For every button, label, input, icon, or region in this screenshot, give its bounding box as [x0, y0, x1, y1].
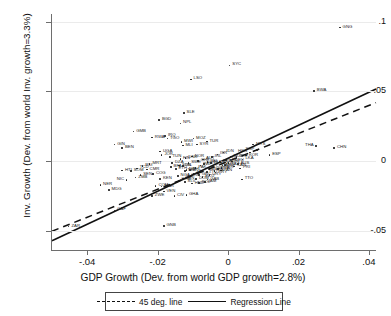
x-tick-label: 0 — [205, 256, 251, 267]
point-label: TUR — [209, 138, 218, 143]
gridline-y — [52, 22, 376, 23]
point-label: NOR — [195, 153, 205, 158]
point-marker — [186, 169, 188, 171]
y-tick-mark — [46, 91, 52, 92]
legend-entry-45-deg-line: 45 deg. line — [97, 297, 182, 307]
point-label: HND — [195, 180, 204, 185]
point-label: TTO — [245, 175, 254, 180]
point-marker — [225, 159, 227, 161]
point-label: MOZ — [196, 135, 206, 140]
point-label: ISL — [186, 162, 192, 167]
point-label: VEN — [166, 188, 175, 193]
point-label: TGO — [170, 135, 179, 140]
x-tick-label: -.02 — [135, 256, 181, 267]
point-label: ZAR — [71, 223, 80, 228]
point-label: SYR — [200, 141, 209, 146]
point-label: GNB — [166, 222, 175, 227]
point-label: NPL — [183, 119, 191, 124]
point-label: CIV — [177, 192, 184, 197]
x-tick-label: .04 — [346, 256, 391, 267]
chart-legend: 45 deg. line Regression Line — [105, 292, 283, 311]
point-marker — [203, 163, 205, 165]
point-marker — [182, 165, 184, 167]
point-marker — [211, 156, 213, 158]
point-marker — [313, 90, 315, 92]
gridline-y — [52, 91, 376, 92]
x-tick-mark — [87, 250, 88, 255]
point-marker — [151, 195, 153, 197]
point-marker — [100, 184, 102, 186]
point-label: PAN — [224, 167, 233, 172]
point-label: ZWE — [155, 192, 165, 197]
point-label: MDG — [112, 186, 122, 191]
point-label: MYS — [256, 141, 265, 146]
dashed-line-swatch — [97, 298, 135, 305]
point-marker — [186, 194, 188, 196]
fitted-lines — [52, 16, 376, 248]
point-label: GTM — [181, 176, 191, 181]
point-label: SLE — [187, 109, 195, 114]
point-label: SGP — [245, 146, 254, 151]
x-tick-label: -.04 — [64, 256, 110, 267]
point-label: ISR — [220, 150, 227, 155]
point-marker — [183, 112, 185, 114]
point-label: MLI — [186, 142, 193, 147]
y-tick-mark — [46, 161, 52, 162]
x-tick-mark — [299, 250, 300, 255]
gridline-y — [52, 231, 376, 232]
point-label: SYC — [232, 61, 241, 66]
point-marker — [108, 189, 110, 191]
point-label: CHN — [337, 144, 346, 149]
point-label: THA — [305, 142, 314, 147]
point-label: MUS — [233, 153, 243, 158]
point-label: BGD — [162, 116, 171, 121]
point-marker — [159, 178, 161, 180]
y-axis-title: Inv. Growth (Dev. from world Inv. growth… — [21, 0, 32, 239]
point-label: SWE — [191, 159, 201, 164]
y-tick-label: -.05 — [342, 225, 386, 235]
point-marker — [181, 141, 183, 143]
y-axis-line — [51, 14, 52, 250]
point-marker — [177, 175, 179, 177]
point-marker — [315, 145, 317, 147]
legend-label-45-deg-line: 45 deg. line — [139, 297, 182, 307]
point-marker — [158, 119, 160, 121]
x-axis-line — [51, 250, 376, 251]
point-label: CAF — [117, 206, 126, 211]
point-marker — [241, 179, 243, 181]
point-label: RWA — [155, 134, 165, 139]
point-marker — [169, 156, 171, 158]
point-marker — [256, 149, 258, 151]
point-label: ESP — [272, 151, 281, 156]
point-label: TUN — [172, 153, 181, 158]
point-marker — [171, 162, 173, 164]
point-marker — [190, 79, 192, 81]
point-marker — [174, 195, 176, 197]
y-tick-label: .1 — [342, 16, 386, 26]
point-label: KEN — [163, 175, 172, 180]
point-marker — [163, 225, 165, 227]
point-label: GIN — [117, 141, 125, 146]
point-marker — [237, 163, 239, 165]
point-label: MRT — [152, 160, 161, 165]
point-label: COG — [156, 170, 166, 175]
point-label: BWA — [317, 87, 327, 92]
x-tick-mark — [369, 250, 370, 255]
point-label: FIN — [183, 155, 190, 160]
plot-area: GNGSYCLSOBWASLEBGDNPLGMBRWAIRQTGOMOZMWIT… — [52, 16, 376, 248]
legend-entry-regression-line: Regression Line — [188, 297, 291, 307]
point-label: SEN — [143, 171, 152, 176]
x-tick-mark — [158, 250, 159, 255]
legend-label-regression-line: Regression Line — [230, 297, 291, 307]
point-label: SOM — [134, 167, 144, 172]
y-tick-label: .05 — [342, 85, 386, 95]
point-marker — [175, 168, 177, 170]
y-tick-label: 0 — [342, 155, 386, 165]
x-tick-mark — [228, 250, 229, 255]
point-marker — [170, 166, 172, 168]
point-label: AUS — [240, 160, 249, 165]
point-label: DZA — [175, 159, 184, 164]
point-marker — [164, 135, 166, 137]
point-marker — [224, 164, 226, 166]
x-tick-label: .02 — [276, 256, 322, 267]
